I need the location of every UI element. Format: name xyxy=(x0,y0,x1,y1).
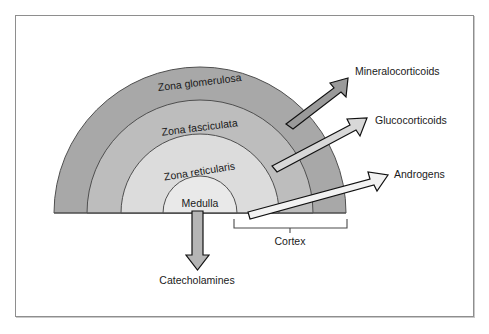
cortex-bracket xyxy=(234,219,347,233)
callout-label-glucocorticoids: Glucocorticoids xyxy=(375,114,447,126)
diagram-canvas: Zona glomerulosa Zona fasciculata Zona r… xyxy=(0,0,489,334)
zone-rings xyxy=(54,67,346,213)
cortex-bracket-label: Cortex xyxy=(275,235,307,247)
callout-label-androgens: Androgens xyxy=(394,168,445,180)
callout-arrow-catecholamines xyxy=(186,211,209,270)
callout-label-mineralocorticoids: Mineralocorticoids xyxy=(355,65,440,77)
adrenal-gland-diagram: Zona glomerulosa Zona fasciculata Zona r… xyxy=(0,0,489,334)
zone-label-medulla: Medulla xyxy=(182,197,219,209)
callout-label-catecholamines: Catecholamines xyxy=(159,274,234,286)
